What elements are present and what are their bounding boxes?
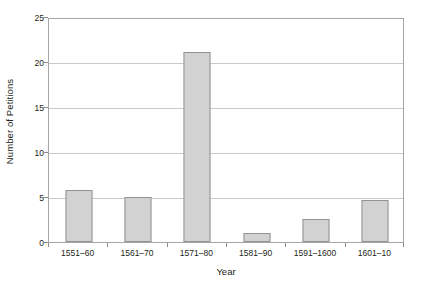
x-axis-tick-mark	[167, 243, 168, 247]
plot-area	[48, 18, 404, 243]
x-axis-tick-marks	[48, 243, 404, 248]
y-axis-title: Number of Petitions	[0, 0, 20, 243]
bar-chart-figure: Number of Petitions 0510152025 1551–6015…	[0, 0, 423, 285]
x-axis-tick-label: 1601–10	[358, 249, 391, 258]
x-axis-tick-mark	[107, 243, 108, 247]
x-axis-tick-mark	[345, 243, 346, 247]
bar-slot	[227, 19, 286, 242]
bar[interactable]	[184, 52, 211, 242]
x-axis-tick-mark	[403, 243, 404, 247]
x-axis-tick-label: 1551–60	[61, 249, 94, 258]
y-axis-tick-label: 25	[22, 14, 44, 23]
x-axis-tick-labels: 1551–601561–701571–801581–901591–1600160…	[48, 249, 404, 263]
bars-container	[49, 19, 403, 242]
bar-slot	[49, 19, 108, 242]
bar[interactable]	[302, 219, 329, 242]
y-axis-tick-label: 5	[22, 194, 44, 203]
bar[interactable]	[362, 200, 389, 242]
y-axis-tick-labels: 0510152025	[22, 0, 44, 285]
y-axis-tick-label: 10	[22, 149, 44, 158]
x-axis-tick-label: 1581–90	[239, 249, 272, 258]
bar-slot	[168, 19, 227, 242]
x-axis-tick-label: 1571–80	[180, 249, 213, 258]
x-axis-tick-label: 1591–1600	[294, 249, 337, 258]
x-axis-tick-mark	[285, 243, 286, 247]
bar[interactable]	[124, 197, 151, 242]
bar-slot	[346, 19, 405, 242]
x-axis-tick-label: 1561–70	[120, 249, 153, 258]
x-axis-tick-mark	[226, 243, 227, 247]
bar[interactable]	[243, 233, 270, 242]
bar-slot	[286, 19, 345, 242]
bar-slot	[108, 19, 167, 242]
x-axis-tick-mark	[48, 243, 49, 247]
bar[interactable]	[65, 190, 92, 242]
y-axis-tick-label: 20	[22, 59, 44, 68]
x-axis-title: Year	[48, 266, 404, 277]
y-axis-tick-label: 0	[22, 239, 44, 248]
y-axis-tick-label: 15	[22, 104, 44, 113]
y-axis-title-text: Number of Petitions	[5, 79, 16, 164]
